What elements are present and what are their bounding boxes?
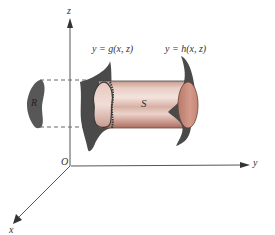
y-axis-arrow-icon bbox=[240, 162, 250, 168]
origin-label: O bbox=[61, 157, 68, 167]
solid-s-label: S bbox=[141, 98, 147, 109]
z-axis bbox=[67, 18, 73, 152]
left-end-cap bbox=[93, 82, 112, 127]
solid-region-diagram: z y x O R S y = g(x, z) y = h(x, z) bbox=[0, 0, 275, 235]
z-axis-label: z bbox=[67, 6, 71, 16]
x-axis bbox=[13, 166, 70, 224]
z-axis-arrow-icon bbox=[67, 18, 73, 28]
left-surface-label: y = g(x, z) bbox=[92, 44, 133, 54]
region-r-label: R bbox=[31, 98, 37, 108]
x-axis-label: x bbox=[9, 225, 13, 235]
diagram-canvas bbox=[0, 0, 275, 235]
y-axis bbox=[71, 162, 250, 168]
right-end-cap bbox=[178, 82, 198, 128]
y-axis-label: y bbox=[253, 158, 257, 168]
right-surface-label: y = h(x, z) bbox=[165, 44, 206, 54]
